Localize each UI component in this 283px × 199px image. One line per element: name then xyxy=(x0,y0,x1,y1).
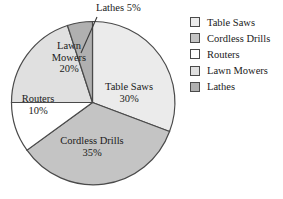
legend-item-lathes[interactable]: Lathes xyxy=(190,79,283,95)
pie-label-lawn-mowers: Lawn Mowers 20% xyxy=(42,40,96,75)
pie-label-lathes: Lathes 5% xyxy=(96,2,168,14)
pie-label-table-saws-name: Table Saws xyxy=(98,81,160,93)
legend-label-lawn-mowers: Lawn Mowers xyxy=(207,65,268,76)
pie-chart-plot-area: Table Saws 30% Cordless Drills 35% Route… xyxy=(0,0,185,199)
legend-swatch-icon-routers xyxy=(190,49,200,59)
legend-swatch-icon-lathes xyxy=(190,82,200,92)
pie-label-table-saws-value: 30% xyxy=(98,93,160,105)
legend-label-cordless-drills: Cordless Drills xyxy=(207,33,270,44)
legend-item-cordless-drills[interactable]: Cordless Drills xyxy=(190,30,283,46)
pie-label-lathes-value: 5% xyxy=(127,2,141,13)
pie-chart-figure: Table Saws 30% Cordless Drills 35% Route… xyxy=(0,0,283,199)
pie-label-lawn-mowers-name-line2: Mowers xyxy=(42,52,96,64)
legend-swatch-icon-lawn-mowers xyxy=(190,66,200,76)
pie-label-table-saws: Table Saws 30% xyxy=(98,81,160,104)
legend-swatch-icon-cordless-drills xyxy=(190,33,200,43)
pie-label-routers-name: Routers xyxy=(8,93,68,105)
pie-label-cordless-drills: Cordless Drills 35% xyxy=(44,135,140,158)
legend-item-routers[interactable]: Routers xyxy=(190,46,283,62)
legend-label-lathes: Lathes xyxy=(207,81,235,92)
chart-legend: Table Saws Cordless Drills Routers Lawn … xyxy=(190,14,283,95)
legend-item-table-saws[interactable]: Table Saws xyxy=(190,14,283,30)
pie-label-routers-value: 10% xyxy=(8,105,68,117)
pie-label-lathes-name: Lathes xyxy=(96,2,127,13)
legend-label-routers: Routers xyxy=(207,49,240,60)
pie-label-cordless-drills-value: 35% xyxy=(44,147,140,159)
legend-swatch-icon-table-saws xyxy=(190,17,200,27)
pie-label-lawn-mowers-name-line1: Lawn xyxy=(42,40,96,52)
pie-label-routers: Routers 10% xyxy=(8,93,68,116)
legend-item-lawn-mowers[interactable]: Lawn Mowers xyxy=(190,63,283,79)
pie-label-lawn-mowers-value: 20% xyxy=(42,63,96,75)
pie-label-cordless-drills-name: Cordless Drills xyxy=(44,135,140,147)
legend-label-table-saws: Table Saws xyxy=(207,17,255,28)
